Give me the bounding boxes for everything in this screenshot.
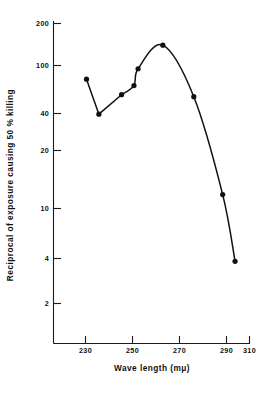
data-point	[232, 259, 237, 264]
data-point	[119, 92, 124, 97]
action-spectrum-chart: Reciprocal of exposure causing 50 % kill…	[0, 0, 270, 394]
x-tick-label: 270	[173, 346, 186, 355]
data-point-markers	[84, 43, 238, 264]
x-tick-label: 250	[126, 346, 139, 355]
data-point	[96, 112, 101, 117]
y-tick-label: 200	[36, 19, 49, 28]
y-tick-label: 2	[45, 299, 49, 308]
y-tick-label: 20	[40, 146, 49, 155]
y-tick-label: 100	[36, 61, 49, 70]
x-tick-label: 310	[243, 346, 256, 355]
data-point	[160, 43, 165, 48]
data-point	[84, 77, 89, 82]
x-tick-label: 230	[79, 346, 92, 355]
y-tick-label: 40	[40, 109, 49, 118]
data-point	[135, 66, 140, 71]
y-axis-title: Reciprocal of exposure causing 50 % kill…	[5, 89, 15, 281]
chart-figure: Reciprocal of exposure causing 50 % kill…	[0, 0, 270, 394]
data-point	[131, 83, 136, 88]
data-point	[220, 192, 225, 197]
x-tick-label: 290	[220, 346, 233, 355]
y-tick-label: 4	[45, 254, 49, 263]
data-curve	[87, 45, 236, 262]
y-axis-ticks: 200 100 40 20 10 4 2	[36, 19, 61, 308]
x-axis-title: Wave length (mμ)	[114, 363, 190, 373]
y-tick-label: 10	[40, 204, 49, 213]
x-axis-ticks: 230 250 270 290 310	[79, 336, 256, 355]
data-point	[191, 94, 196, 99]
